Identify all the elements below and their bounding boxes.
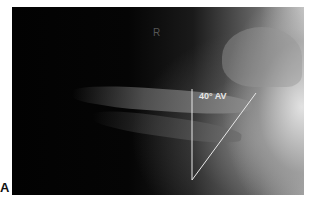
angle-lines <box>0 0 310 204</box>
angle-annotation: 40° AV <box>199 91 227 101</box>
panel-label: A <box>0 180 9 195</box>
angled-line <box>192 93 256 180</box>
